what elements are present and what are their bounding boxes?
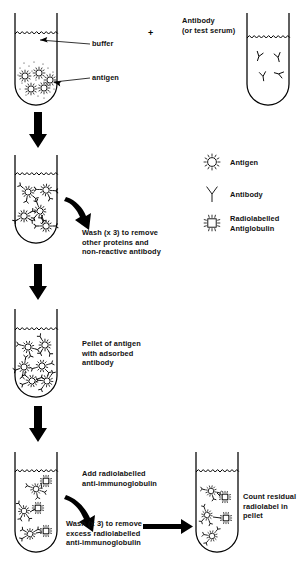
label-antigen: antigen xyxy=(92,73,119,83)
tube-pellet xyxy=(10,309,59,397)
label-antibody-title: Antibody xyxy=(182,16,215,26)
label-add-radiolabel-step: Add radiolabelled anti-immunoglobulin xyxy=(82,469,157,488)
flow-arrow-1 xyxy=(29,112,47,148)
antigen-icon xyxy=(204,154,220,170)
tube-final-pellet xyxy=(143,452,239,552)
radiolabelled-antiglobulin-icon xyxy=(204,215,220,231)
flow-arrow-2 xyxy=(29,264,47,300)
antigen-antibody-complexes xyxy=(11,178,61,239)
legend-label-antibody: Antibody xyxy=(230,190,263,200)
free-antibodies xyxy=(254,51,284,82)
labelled-complexes xyxy=(10,475,52,546)
label-antibody-subtitle: (or test serum) xyxy=(182,26,235,36)
label-buffer: buffer xyxy=(92,39,114,49)
legend-label-radiolabelled-antiglobulin: Radiolabelled Antiglobulin xyxy=(230,214,279,233)
label-wash-step-2: Wash (x 3) to remove excess radiolabelle… xyxy=(66,519,142,548)
tube-antibody xyxy=(247,13,290,105)
label-count-step: Count residual radiolabel in pellet xyxy=(243,492,296,521)
label-pellet-step: Pellet of antigen with adsorbed antibody xyxy=(82,339,141,368)
plus-sign: + xyxy=(148,28,153,38)
final-labelled-pellet xyxy=(193,481,232,547)
flow-arrow-3 xyxy=(29,406,47,442)
diagram-canvas: buffer antigen + Antibody (or test serum… xyxy=(0,0,307,571)
tube-antigen-buffer xyxy=(15,13,90,105)
tube-complexes-suspended xyxy=(11,155,91,243)
label-wash-step-1: Wash (x 3) to remove other proteins and … xyxy=(82,228,161,257)
antigen-sediment xyxy=(18,62,56,99)
legend-label-antigen: Antigen xyxy=(230,158,258,168)
antibody-icon xyxy=(207,187,218,202)
